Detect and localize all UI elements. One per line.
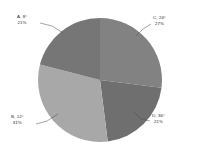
pie-label-b-percent: 31% — [11, 120, 24, 126]
pie-label-d-percent: 21% — [152, 119, 165, 125]
pie-chart-svg — [0, 0, 198, 150]
pie-chart-figure: A, 8° 21% C, 24° 27% B, 12° 31% D, 36° 2… — [0, 0, 198, 150]
pie-slice-c[interactable] — [100, 18, 162, 88]
pie-label-d: D, 36° 21% — [152, 113, 165, 125]
pie-label-c: C, 24° 27% — [153, 15, 166, 27]
leader-line-a — [40, 23, 63, 33]
pie-label-a-percent: 21% — [17, 20, 27, 26]
pie-label-c-percent: 27% — [153, 21, 166, 27]
pie-slice-d[interactable] — [100, 80, 162, 142]
pie-label-a: A, 8° 21% — [17, 14, 27, 26]
pie-label-b: B, 12° 31% — [11, 114, 24, 126]
